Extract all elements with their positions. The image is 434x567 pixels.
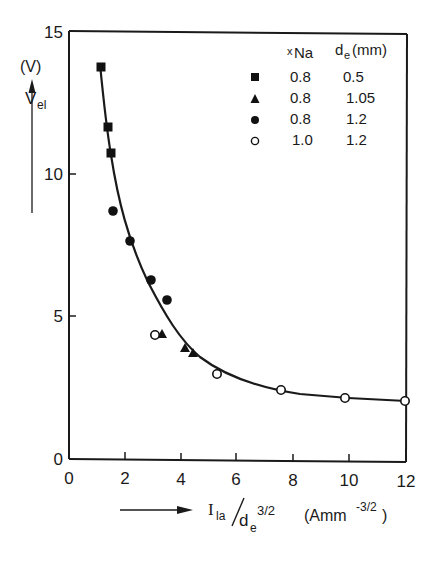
legend-row-1-de: 0.5: [343, 68, 364, 85]
x-denominator-subscript: e: [250, 521, 257, 535]
legend-header-xna: Na: [294, 44, 314, 61]
y-tick-15: 15: [44, 23, 63, 42]
data-point-filled-circle: [146, 275, 156, 285]
x-tick-0: 0: [64, 469, 73, 488]
x-tick-8: 8: [288, 471, 297, 490]
data-point-filled-circle: [162, 295, 172, 305]
data-point-open-circle: [277, 386, 285, 394]
x-unit-exponent: -3/2: [356, 500, 377, 514]
series-filled-circles: [108, 206, 172, 305]
y-tick-0: 0: [54, 450, 63, 469]
x-arrow-icon: [177, 506, 193, 514]
chart: 15 10 5 0 0 2 4 6 8 10 12 (V) V el I la …: [0, 0, 434, 567]
y-tick-5: 5: [54, 307, 63, 326]
data-point-open-circle: [213, 370, 221, 378]
x-axis-label: I la d e 3/2 (Amm -3/2 ): [120, 498, 387, 535]
data-point-open-circle: [341, 394, 349, 402]
legend-filled-circle-icon: [251, 116, 259, 124]
y-axis-label: (V) V el: [20, 58, 46, 213]
series-squares: [97, 63, 116, 158]
data-point-square: [107, 149, 116, 158]
legend-open-circle-icon: [251, 137, 258, 144]
legend-header-xna-prefix: x: [287, 45, 293, 57]
data-point-filled-circle: [125, 236, 135, 246]
legend-row-3-xna: 0.8: [290, 110, 311, 127]
legend-header-de: d: [335, 41, 343, 58]
x-tick-4: 4: [176, 470, 185, 489]
x-tick-10: 10: [340, 471, 359, 490]
data-point-square: [104, 123, 113, 132]
x-unit-close: ): [382, 507, 387, 524]
y-unit: (V): [20, 58, 41, 75]
x-tick-12: 12: [397, 472, 416, 491]
x-tick-6: 6: [231, 470, 240, 489]
legend-row-3-de: 1.2: [346, 110, 367, 127]
legend-row-2-xna: 0.8: [290, 89, 311, 106]
x-tick-labels: 0 2 4 6 8 10 12: [64, 469, 415, 491]
legend-header-de-subscript: e: [344, 49, 350, 61]
y-arrow-icon: [29, 79, 36, 93]
legend-row-4-xna: 1.0: [292, 131, 313, 148]
x-denominator: d: [239, 511, 248, 530]
legend: x Na d e (mm) 0.8 0.5 0.8 1.05 0.8 1.2 1…: [251, 41, 387, 148]
data-point-filled-circle: [108, 206, 118, 216]
legend-square-icon: [251, 73, 259, 81]
x-unit: (Amm: [304, 507, 347, 524]
data-point-open-circle: [151, 331, 159, 339]
y-tick-10: 10: [44, 165, 63, 184]
data-point-open-circle: [401, 397, 409, 405]
x-tick-2: 2: [120, 469, 129, 488]
x-symbol-subscript: la: [216, 509, 226, 523]
legend-row-1-xna: 0.8: [290, 68, 311, 85]
legend-triangle-icon: [251, 94, 260, 103]
y-axis-ticks: [69, 174, 76, 316]
legend-row-4-de: 1.2: [346, 131, 367, 148]
y-symbol-subscript: el: [37, 98, 46, 112]
legend-header-de-unit: (mm): [352, 41, 387, 58]
x-symbol: I: [208, 500, 214, 519]
y-tick-labels: 15 10 5 0: [44, 23, 63, 469]
series-open-circles: [151, 331, 409, 405]
data-point-square: [97, 63, 106, 72]
legend-row-2-de: 1.05: [346, 89, 375, 106]
x-exponent: 3/2: [257, 503, 275, 518]
